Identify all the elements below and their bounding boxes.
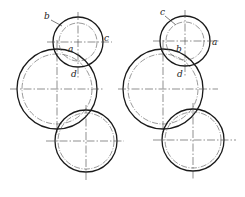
left-label-c: c bbox=[104, 33, 109, 43]
left-large-gear bbox=[10, 40, 104, 135]
right-label-a: a bbox=[212, 37, 217, 47]
left-label-b: b bbox=[44, 11, 50, 21]
left-label-a: a bbox=[68, 44, 73, 54]
right-label-c: c bbox=[160, 7, 165, 17]
gear-diagram: b a c d c b a d bbox=[0, 0, 245, 197]
left-gear-train: b a c d bbox=[10, 11, 124, 180]
right-label-d: d bbox=[177, 69, 183, 79]
left-bottom-gear bbox=[46, 105, 124, 180]
right-label-b: b bbox=[176, 44, 182, 54]
left-leader-b bbox=[51, 20, 62, 26]
left-label-d: d bbox=[71, 69, 77, 79]
right-gear-train: c b a d bbox=[118, 7, 236, 180]
